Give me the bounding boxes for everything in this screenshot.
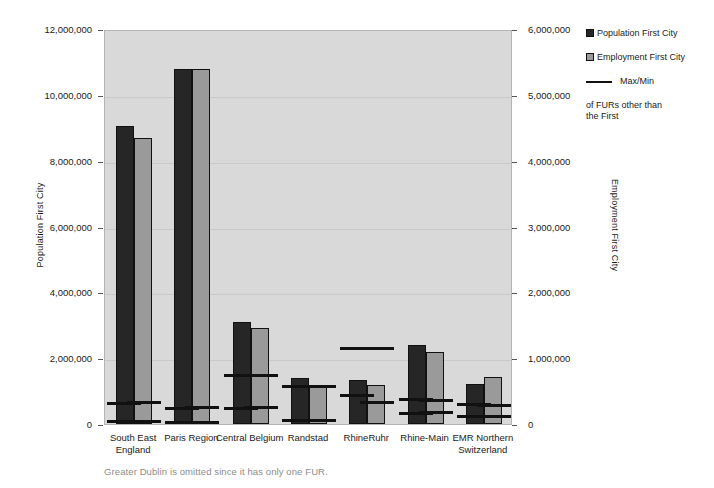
y-axis-right-tick-mark <box>512 359 517 360</box>
legend-label-employment: Employment First City <box>597 52 685 63</box>
legend-label-maxmin: Max/Min <box>620 76 654 87</box>
y-axis-left-tick-mark <box>98 425 103 426</box>
y-axis-right-tick-label: 4,000,000 <box>528 156 570 167</box>
marker-max-employment <box>360 347 394 350</box>
marker-min-employment <box>419 411 453 414</box>
marker-min-employment <box>127 420 161 423</box>
y-axis-right-tick-mark <box>512 162 517 163</box>
bar-group <box>222 31 280 424</box>
bar-group <box>280 31 338 424</box>
marker-min-employment <box>477 415 511 418</box>
y-axis-right-tick-label: 5,000,000 <box>528 90 570 101</box>
bar-group <box>455 31 513 424</box>
y-axis-left-tick-mark <box>98 30 103 31</box>
y-axis-right-title: Employment First City <box>610 155 620 295</box>
legend-line-maxmin-icon <box>586 81 612 83</box>
marker-min-employment <box>360 401 394 404</box>
marker-max-employment <box>419 399 453 402</box>
y-axis-right-tick-mark <box>512 30 517 31</box>
marker-min-population <box>340 394 374 397</box>
y-axis-right-tick-label: 1,000,000 <box>528 353 570 364</box>
y-axis-right-tick-label: 3,000,000 <box>528 222 570 233</box>
legend-label-population: Population First City <box>597 28 678 39</box>
y-axis-right-tick-label: 2,000,000 <box>528 287 570 298</box>
y-axis-left-tick-label: 2,000,000 <box>0 353 92 364</box>
bar-population[interactable] <box>174 69 192 424</box>
bar-group <box>105 31 163 424</box>
y-axis-left-tick-label: 0 <box>0 419 92 430</box>
legend-item-population: Population First City <box>586 28 714 39</box>
y-axis-right-tick-mark <box>512 228 517 229</box>
legend-swatch-population-icon <box>586 29 594 37</box>
y-axis-right-tick-mark <box>512 425 517 426</box>
marker-min-employment <box>244 406 278 409</box>
legend-swatch-employment-icon <box>586 53 594 61</box>
y-axis-left-tick-label: 10,000,000 <box>0 90 92 101</box>
y-axis-left-tick-label: 12,000,000 <box>0 24 92 35</box>
bar-employment[interactable] <box>192 69 210 424</box>
legend-maxmin-line2: of FURs other than <box>586 100 714 111</box>
bar-employment[interactable] <box>134 138 152 424</box>
plot-area <box>104 30 512 425</box>
y-axis-right-tick-label: 6,000,000 <box>528 24 570 35</box>
marker-max-employment <box>185 406 219 409</box>
bar-population[interactable] <box>116 126 134 424</box>
chart-legend: Population First City Employment First C… <box>586 28 714 122</box>
y-axis-left-tick-mark <box>98 162 103 163</box>
y-axis-left-tick-mark <box>98 96 103 97</box>
bar-group <box>338 31 396 424</box>
y-axis-left-tick-mark <box>98 293 103 294</box>
chart-caption: Greater Dublin is omitted since it has o… <box>104 466 328 477</box>
y-axis-left-tick-label: 4,000,000 <box>0 287 92 298</box>
y-axis-left-tick-label: 6,000,000 <box>0 222 92 233</box>
y-axis-right-tick-label: 0 <box>528 419 533 430</box>
marker-max-employment <box>302 385 336 388</box>
legend-maxmin-line3: the First <box>586 111 714 122</box>
marker-max-employment <box>127 401 161 404</box>
y-axis-left-tick-mark <box>98 228 103 229</box>
y-axis-right-tick-mark <box>512 96 517 97</box>
bar-employment[interactable] <box>367 385 385 425</box>
bar-group <box>396 31 454 424</box>
marker-max-employment <box>477 404 511 407</box>
y-axis-right-tick-mark <box>512 293 517 294</box>
marker-min-employment <box>302 419 336 422</box>
chart-figure: Population First City 02,000,0004,000,00… <box>0 0 714 488</box>
marker-max-employment <box>244 374 278 377</box>
marker-min-employment <box>185 421 219 424</box>
y-axis-left-tick-mark <box>98 359 103 360</box>
x-axis-category-label: EMR Northern Switzerland <box>446 432 520 456</box>
y-axis-left-tick-label: 8,000,000 <box>0 156 92 167</box>
bar-group <box>163 31 221 424</box>
legend-item-employment: Employment First City <box>586 52 714 63</box>
y-axis-left-ticks: 02,000,0004,000,0006,000,0008,000,00010,… <box>0 0 98 488</box>
legend-item-maxmin: Max/Min <box>586 76 714 87</box>
legend-maxmin-description: of FURs other than the First <box>586 100 714 122</box>
